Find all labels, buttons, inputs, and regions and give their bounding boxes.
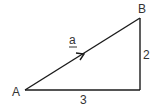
triangle-diagram: A B a 2 3 <box>0 0 153 108</box>
side-label-vertical: 2 <box>143 48 150 62</box>
vertex-label-a: A <box>12 85 20 99</box>
vector-label-a: a <box>69 33 76 47</box>
side-label-horizontal: 3 <box>80 93 87 107</box>
vertex-label-b: B <box>138 2 146 16</box>
